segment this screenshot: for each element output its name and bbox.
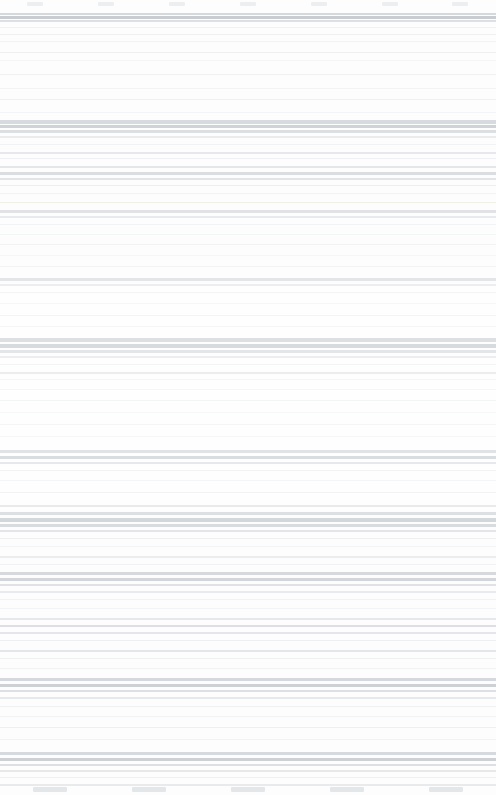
page-surface	[0, 0, 496, 795]
screen-capture	[0, 0, 496, 795]
